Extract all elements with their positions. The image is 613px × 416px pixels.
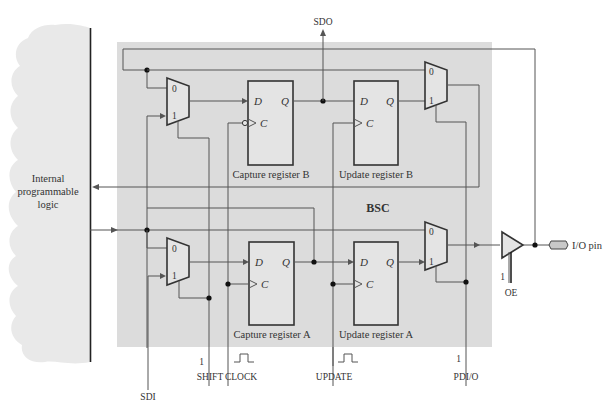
mux-input-1-label: 1 (429, 96, 434, 106)
update-register-b-label: Update register B (339, 169, 413, 180)
update-register-a-label: Update register A (339, 329, 413, 340)
port-c: C (366, 278, 374, 290)
output-buffer (502, 232, 523, 258)
io-pin: I/O pin (549, 240, 603, 251)
mux-input-0-label: 0 (429, 227, 434, 237)
pdio-label: PDI/O (454, 372, 479, 382)
junction-dot (330, 281, 335, 286)
mux-input-1-label: 1 (429, 257, 434, 267)
port-q: Q (386, 256, 394, 268)
shift-label: SHIFT (197, 372, 224, 382)
port-q: Q (282, 256, 290, 268)
mux-input-1-label: 1 (172, 111, 177, 121)
port-c: C (261, 278, 269, 290)
mux-a-capture: 0 1 (167, 238, 189, 285)
pdio-value: 1 (456, 354, 461, 364)
junction-dot (532, 242, 537, 247)
clock-pulse-icon (234, 354, 254, 362)
capture-register-b-label: Capture register B (233, 169, 310, 180)
mux-input-1-label: 1 (172, 271, 177, 281)
port-d: D (253, 95, 262, 107)
mux-input-0-label: 0 (429, 67, 434, 77)
bsc-label: BSC (366, 201, 389, 215)
update-label: UPDATE (316, 372, 353, 382)
internal-logic-label-1: Internal (32, 173, 65, 184)
port-c: C (366, 117, 374, 129)
port-d: D (359, 95, 368, 107)
junction-dot (206, 295, 211, 300)
mux-a-output: 0 1 (425, 222, 447, 270)
sdo-arrow-icon (320, 29, 326, 36)
junction-dot (225, 281, 230, 286)
port-c: C (260, 117, 268, 129)
io-pin-label: I/O pin (572, 240, 603, 251)
bsc-diagram: Internal programmable logic BSC 0 1 D Q … (0, 0, 613, 416)
shift-value: 1 (199, 357, 204, 367)
sdo-label: SDO (313, 17, 332, 27)
mux-input-0-label: 0 (172, 84, 177, 94)
port-q: Q (281, 95, 289, 107)
oe-value: 1 (500, 272, 505, 282)
sdi-label: SDI (140, 392, 155, 402)
port-d: D (254, 256, 263, 268)
mux-b-capture: 0 1 (167, 78, 189, 125)
internal-logic-label-3: logic (38, 199, 59, 210)
clock-label: CLOCK (225, 372, 257, 382)
mux-b-output: 0 1 (425, 62, 447, 109)
from-internal-logic-arrow-icon (111, 227, 118, 233)
internal-logic-label-2: programmable (17, 186, 79, 197)
internal-logic-cloud: Internal programmable logic (9, 24, 90, 363)
port-d: D (359, 256, 368, 268)
capture-register-a-label: Capture register A (234, 329, 311, 340)
update-pulse-icon (338, 354, 358, 362)
junction-dot (311, 259, 316, 264)
to-internal-logic-arrow-icon (92, 184, 99, 190)
mux-input-0-label: 0 (172, 244, 177, 254)
port-q: Q (386, 95, 394, 107)
oe-label: OE (505, 288, 518, 298)
junction-dot (463, 279, 468, 284)
